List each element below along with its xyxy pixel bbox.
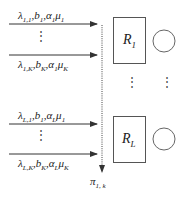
label-group1-top: λ1,1,b1,α1μ1 [18, 10, 64, 24]
queue-circle-L [153, 128, 175, 150]
vdots-group1: ⋮ [35, 34, 41, 38]
label-groupL-top: λL,1,b1,αLμ1 [18, 110, 65, 124]
output-label-pi: π1, k [90, 176, 106, 190]
vdots-circles: ⋮ [161, 80, 167, 84]
queue-circle-1 [153, 30, 175, 52]
label-group1-bottom: λ1,K,bK,α1μK [18, 59, 68, 73]
label-groupL-bottom: λL,K,bK,αLμK [18, 158, 69, 172]
vdots-servers: ⋮ [126, 80, 132, 84]
server-label-R1: R1 [123, 33, 136, 50]
vdots-groupL: ⋮ [35, 133, 41, 137]
server-label-RL: RL [122, 132, 136, 149]
